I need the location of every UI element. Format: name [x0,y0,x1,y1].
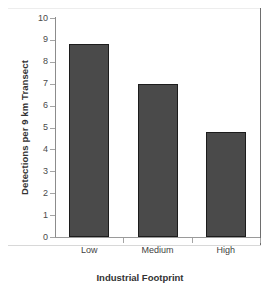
y-axis-tick-label: 3 [22,167,48,176]
y-axis-tick-label: 4 [22,145,48,154]
y-axis-tick [50,18,55,19]
y-axis-tick-labels: 109876543210 [18,0,48,293]
y-axis-tick [50,84,55,85]
y-axis-tick [50,149,55,150]
y-axis-tick-label: 10 [22,14,48,23]
y-axis-tick [50,193,55,194]
x-axis-tick [123,238,124,243]
y-axis-tick-label: 0 [22,233,48,242]
y-axis-tick-label: 2 [22,189,48,198]
y-axis-tick-label: 8 [22,57,48,66]
y-axis-tick-label: 1 [22,211,48,220]
bar-medium [138,84,178,237]
y-axis-tick-label: 9 [22,35,48,44]
y-axis-tick [50,171,55,172]
y-axis-tick [50,215,55,216]
figure-frame-right [260,8,261,246]
y-axis-tick [50,62,55,63]
x-axis-tick-label: Medium [123,245,191,256]
x-axis-tick-label: High [192,245,260,256]
y-axis-tick [50,40,55,41]
bar-chart-figure: Detections per 9 km Transect 10987654321… [0,0,276,293]
y-axis-tick [50,106,55,107]
y-axis-tick [50,128,55,129]
x-axis-tick [192,238,193,243]
x-axis-tick-label: Low [55,245,123,256]
y-axis-tick-label: 6 [22,101,48,110]
y-axis-tick-label: 5 [22,123,48,132]
x-axis-line [55,237,260,238]
plot-area [55,18,260,237]
y-axis-tick-label: 7 [22,79,48,88]
x-axis-title: Industrial Footprint [20,272,260,283]
bar-high [206,132,246,237]
bar-low [69,44,109,237]
y-axis-tick [50,237,55,238]
x-axis-tick [260,238,261,243]
